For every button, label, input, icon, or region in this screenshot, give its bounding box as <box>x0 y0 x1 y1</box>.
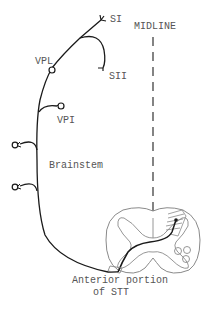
label-midline: MIDLINE <box>134 21 176 32</box>
brainstem-node-lower-tail-icon <box>18 184 21 189</box>
grey-matter-outline <box>118 218 189 269</box>
stt-pathway-diagram <box>0 0 213 309</box>
label-of-stt: of STT <box>93 287 129 298</box>
brainstem-node-lower-icon <box>12 184 18 190</box>
label-sii: SII <box>109 71 127 82</box>
lateral-column-circles <box>175 247 191 263</box>
label-vpi: VPI <box>57 115 75 126</box>
stt-crossing-fiber <box>118 220 176 272</box>
vpi-branch-path <box>39 106 57 112</box>
vpl-node-icon <box>49 67 55 73</box>
brainstem-node-upper-tail-icon <box>18 142 21 147</box>
dorsal-horn-cell-icon <box>174 218 178 222</box>
brainstem-node-upper-icon <box>12 142 18 148</box>
sii-terminal-icon <box>98 68 103 71</box>
label-anterior-portion: Anterior portion <box>72 275 168 286</box>
label-vpl: VPL <box>35 56 53 67</box>
sii-branch-path <box>80 37 105 69</box>
label-brainstem: Brainstem <box>49 160 103 171</box>
dorsal-horn-laminae <box>166 210 186 236</box>
label-si: SI <box>110 14 122 25</box>
brainstem-branch-upper <box>20 142 37 150</box>
brainstem-branch-lower <box>20 184 37 191</box>
spinal-cord-outline <box>106 208 200 273</box>
